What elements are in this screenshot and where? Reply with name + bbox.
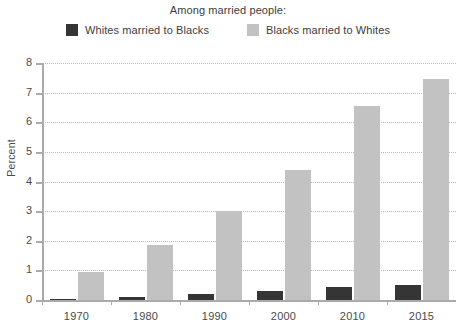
bar-1990-series2[interactable] xyxy=(216,211,242,300)
bar-group-2010 xyxy=(326,63,380,300)
bar-1990-series1[interactable] xyxy=(188,294,214,300)
x-tick-mark-2010 xyxy=(318,300,319,305)
bars-layer xyxy=(42,63,456,300)
bar-2010-series2[interactable] xyxy=(354,106,380,300)
x-tick-label-1970: 1970 xyxy=(47,310,107,322)
bar-group-1980 xyxy=(119,63,173,300)
bar-1980-series1[interactable] xyxy=(119,297,145,300)
x-tick-label-2010: 2010 xyxy=(323,310,383,322)
legend-item-blacks-married-to-whites[interactable]: Blacks married to Whites xyxy=(247,24,390,36)
chart-legend: Whites married to Blacks Blacks married … xyxy=(0,24,456,36)
x-tick-mark-2000 xyxy=(249,300,250,305)
x-tick-mark-1990 xyxy=(180,300,181,305)
bar-2010-series1[interactable] xyxy=(326,287,352,300)
bar-chart: Among married people: Whites married to … xyxy=(0,0,456,333)
bar-group-1970 xyxy=(50,63,104,300)
legend-label-whites-married-to-blacks: Whites married to Blacks xyxy=(85,24,209,36)
y-tick-label-3: 3 xyxy=(0,204,32,216)
x-tick-label-1980: 1980 xyxy=(116,310,176,322)
bar-2000-series2[interactable] xyxy=(285,170,311,300)
bar-1980-series2[interactable] xyxy=(147,245,173,300)
y-tick-label-7: 7 xyxy=(0,86,32,98)
y-tick-label-1: 1 xyxy=(0,263,32,275)
bar-group-2015 xyxy=(395,63,449,300)
y-tick-label-6: 6 xyxy=(0,115,32,127)
bar-2000-series1[interactable] xyxy=(257,291,283,300)
bar-2015-series1[interactable] xyxy=(395,285,421,300)
y-tick-label-0: 0 xyxy=(0,293,32,305)
bar-1970-series1[interactable] xyxy=(50,299,76,300)
x-tick-mark-2015 xyxy=(387,300,388,305)
x-tick-mark-1970 xyxy=(42,300,43,305)
y-axis-title: Percent xyxy=(5,128,17,188)
legend-item-whites-married-to-blacks[interactable]: Whites married to Blacks xyxy=(66,24,209,36)
x-tick-label-2000: 2000 xyxy=(254,310,314,322)
bar-2015-series2[interactable] xyxy=(423,79,449,300)
y-tick-label-2: 2 xyxy=(0,234,32,246)
x-tick-label-2015: 2015 xyxy=(392,310,452,322)
bar-1970-series2[interactable] xyxy=(78,272,104,300)
bar-group-1990 xyxy=(188,63,242,300)
bar-group-2000 xyxy=(257,63,311,300)
x-tick-label-1990: 1990 xyxy=(185,310,245,322)
legend-swatch-dark xyxy=(66,24,78,36)
legend-swatch-light xyxy=(247,24,259,36)
chart-subtitle: Among married people: xyxy=(0,4,456,16)
legend-label-blacks-married-to-whites: Blacks married to Whites xyxy=(266,24,390,36)
y-tick-label-8: 8 xyxy=(0,56,32,68)
x-tick-mark-1980 xyxy=(111,300,112,305)
